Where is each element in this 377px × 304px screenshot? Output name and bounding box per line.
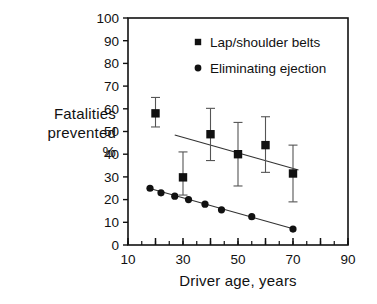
y-axis-tick-label: 60 xyxy=(104,102,119,117)
chart-figure: Fatalities prevented % Driver age, years… xyxy=(0,0,377,304)
x-axis-tick-label: 70 xyxy=(285,252,300,267)
y-axis-tick-label: 30 xyxy=(104,170,119,185)
data-point-square xyxy=(151,109,159,117)
legend-label: Eliminating ejection xyxy=(210,61,326,76)
data-point-circle xyxy=(146,185,153,192)
chart-plot: 01020304050607080901001030507090Lap/shou… xyxy=(0,0,377,304)
x-axis-tick-label: 50 xyxy=(230,252,245,267)
y-axis-tick-label: 40 xyxy=(104,147,119,162)
legend-marker-square xyxy=(195,39,201,45)
data-point-square xyxy=(289,169,297,177)
y-axis-tick-label: 10 xyxy=(104,215,119,230)
y-axis-tick-label: 20 xyxy=(104,192,119,207)
data-point-circle xyxy=(185,196,192,203)
legend-marker-circle xyxy=(195,65,202,72)
data-point-square xyxy=(179,173,187,181)
x-axis-tick-label: 10 xyxy=(120,252,135,267)
data-point-circle xyxy=(289,226,296,233)
x-axis-tick-label: 90 xyxy=(340,252,355,267)
data-point-circle xyxy=(157,189,164,196)
data-point-square xyxy=(206,130,214,138)
data-point-square xyxy=(261,141,269,149)
y-axis-tick-label: 70 xyxy=(104,79,119,94)
data-point-square xyxy=(234,150,242,158)
data-point-circle xyxy=(218,206,225,213)
y-axis-tick-label: 100 xyxy=(96,11,119,26)
y-axis-tick-label: 80 xyxy=(104,56,119,71)
x-axis-tick-label: 30 xyxy=(175,252,190,267)
data-point-circle xyxy=(248,213,255,220)
data-point-circle xyxy=(171,193,178,200)
data-point-circle xyxy=(201,201,208,208)
y-axis-tick-label: 0 xyxy=(111,238,119,253)
y-axis-tick-label: 50 xyxy=(104,124,119,139)
legend-label: Lap/shoulder belts xyxy=(210,35,321,50)
y-axis-tick-label: 90 xyxy=(104,34,119,49)
